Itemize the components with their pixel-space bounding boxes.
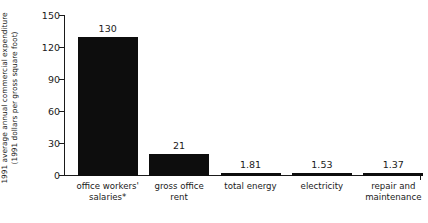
category-label: electricity [301, 181, 344, 192]
category-label-line2: salaries* [76, 192, 138, 203]
y-tick-label: 0 [54, 170, 60, 181]
y-tick-label: 30 [48, 138, 60, 149]
y-tick-label: 120 [42, 42, 60, 53]
bar [292, 173, 352, 176]
category-label-line2: rent [154, 192, 203, 203]
category-label: repair andmaintenance [365, 181, 421, 203]
category-label-line1: office workers' [76, 181, 138, 191]
plot-area: 0306090120150 130211.811.531.37 office w… [64, 15, 421, 176]
category-label-line1: total energy [224, 181, 276, 191]
category-label: office workers'salaries* [76, 181, 138, 203]
bar [149, 154, 209, 176]
bar-value-label: 1.53 [311, 159, 332, 170]
bar-value-label: 1.37 [383, 159, 404, 170]
y-tick-label: 150 [42, 10, 60, 21]
category-label: gross officerent [154, 181, 203, 203]
chart-figure: 1991 average annual commercial expenditu… [0, 0, 428, 223]
category-label-line2: maintenance [365, 192, 421, 203]
y-axis-title-line2: (1991 dollars per gross square foot) [10, 0, 20, 196]
category-label-line1: repair and [371, 181, 415, 191]
bar-value-label: 21 [173, 140, 185, 151]
category-label-line1: gross office [154, 181, 203, 191]
bar-value-label: 130 [99, 23, 117, 34]
bar-value-label: 1.81 [240, 159, 261, 170]
y-tick-label: 90 [48, 74, 60, 85]
bar [363, 173, 423, 176]
y-axis-line [64, 15, 65, 176]
y-axis-title: 1991 average annual commercial expenditu… [0, 0, 30, 200]
bar [78, 37, 138, 176]
y-axis-title-text: 1991 average annual commercial expenditu… [0, 0, 20, 196]
category-label: total energy [224, 181, 276, 192]
bar [221, 173, 281, 176]
y-tick-label: 60 [48, 106, 60, 117]
y-axis-title-line1: 1991 average annual commercial expenditu… [0, 12, 9, 183]
category-label-line1: electricity [301, 181, 344, 191]
